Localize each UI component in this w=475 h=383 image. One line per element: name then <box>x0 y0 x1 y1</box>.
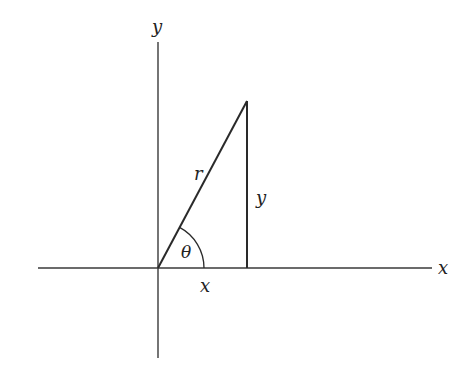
y-axis-label: y <box>151 16 163 37</box>
polar-coordinates-diagram: y x r y x θ <box>0 0 475 383</box>
adjacent-leg-label: x <box>200 275 210 296</box>
hypotenuse-r <box>158 101 247 268</box>
opposite-leg-label: y <box>255 187 267 208</box>
angle-label: θ <box>181 242 191 262</box>
hypotenuse-label: r <box>194 163 204 184</box>
x-axis-label: x <box>438 257 448 278</box>
